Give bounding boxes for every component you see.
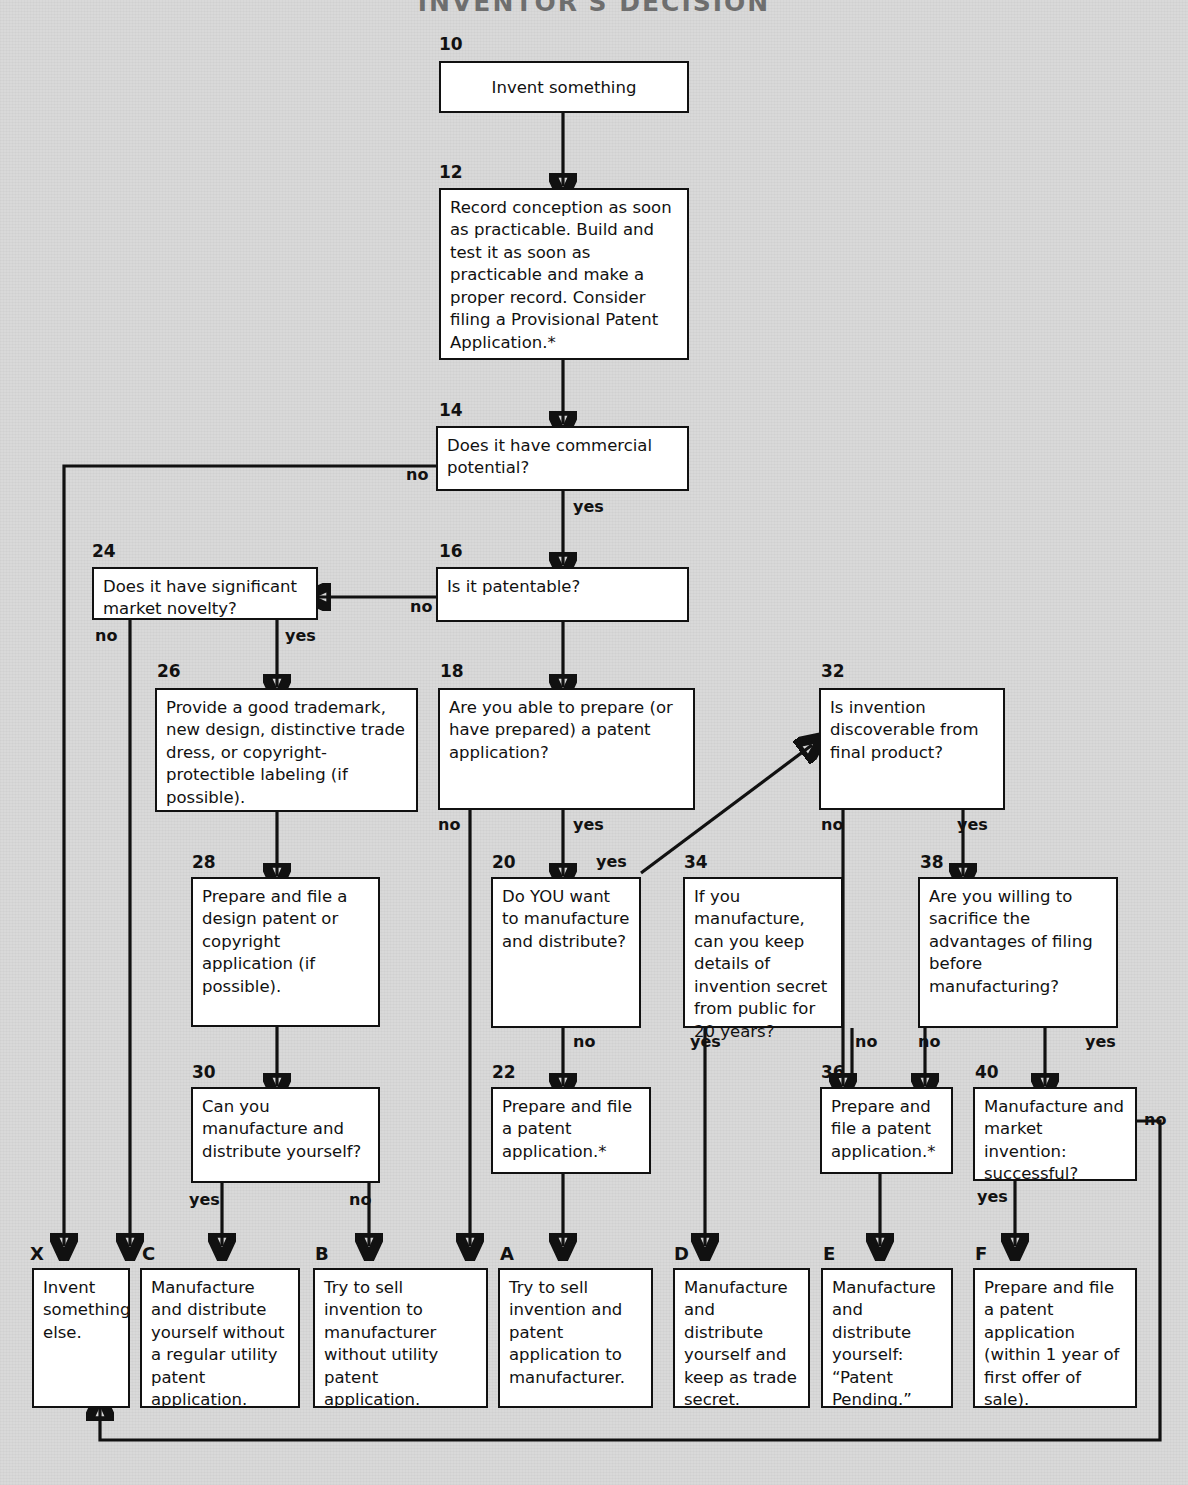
node-number-16: 16 [439, 541, 463, 561]
node-box-e[interactable]: Manufacture and distribute yourself: “Pa… [821, 1268, 953, 1408]
node-number-32: 32 [821, 661, 845, 681]
node-number-34: 34 [684, 852, 708, 872]
edge-label-24-yes: yes [285, 626, 316, 645]
node-box-24[interactable]: Does it have significant market novelty? [92, 567, 318, 620]
node-number-x: X [30, 1243, 44, 1264]
node-box-18[interactable]: Are you able to prepare (or have prepare… [438, 688, 695, 810]
node-box-34[interactable]: If you manufacture, can you keep details… [683, 877, 843, 1028]
edge-label-24-no: no [95, 626, 117, 645]
edge-label-38-yes: yes [1085, 1032, 1116, 1051]
node-number-e: E [823, 1243, 835, 1264]
node-number-28: 28 [192, 852, 216, 872]
edge-label-40-yes: yes [977, 1187, 1008, 1206]
node-box-22[interactable]: Prepare and file a patent application.* [491, 1087, 651, 1174]
edge-label-32-yes: yes [957, 815, 988, 834]
node-box-30[interactable]: Can you manufacture and distribute yours… [191, 1087, 380, 1183]
node-box-32[interactable]: Is invention discoverable from final pro… [819, 688, 1005, 810]
node-box-12[interactable]: Record conception as soon as practicable… [439, 188, 689, 360]
node-box-b[interactable]: Try to sell invention to manufacturer wi… [313, 1268, 488, 1408]
node-box-a[interactable]: Try to sell invention and patent applica… [498, 1268, 653, 1408]
node-number-30: 30 [192, 1062, 216, 1082]
edge-label-14-no: no [406, 465, 428, 484]
node-box-d[interactable]: Manufacture and distribute yourself and … [673, 1268, 810, 1408]
edge-label-20-no: no [573, 1032, 595, 1051]
node-box-16[interactable]: Is it patentable? [436, 567, 689, 622]
node-box-c[interactable]: Manufacture and distribute yourself with… [140, 1268, 300, 1408]
node-number-36: 36 [821, 1062, 845, 1082]
page-title: INVENTOR'S DECISION [0, 0, 1188, 17]
edge-label-18-no: no [438, 815, 460, 834]
node-box-26[interactable]: Provide a good trademark, new design, di… [155, 688, 418, 812]
node-number-f: F [975, 1243, 987, 1264]
node-number-20: 20 [492, 852, 516, 872]
edge-label-20-yes: yes [596, 852, 627, 871]
node-number-a: A [500, 1243, 514, 1264]
edge-label-38-no: no [918, 1032, 940, 1051]
node-box-20[interactable]: Do YOU want to manufacture and distribut… [491, 877, 641, 1028]
edge-label-18-yes: yes [573, 815, 604, 834]
node-box-40[interactable]: Manufacture and market invention: succes… [973, 1087, 1137, 1181]
edge-label-32-no: no [821, 815, 843, 834]
node-number-c: C [142, 1243, 155, 1264]
node-box-36[interactable]: Prepare and file a patent application.* [820, 1087, 953, 1174]
node-number-d: D [674, 1243, 689, 1264]
node-number-22: 22 [492, 1062, 516, 1082]
edge-label-34-no: no [855, 1032, 877, 1051]
edge-label-40-no: no [1144, 1110, 1166, 1129]
node-number-26: 26 [157, 661, 181, 681]
edge-label-30-yes: yes [189, 1190, 220, 1209]
edge-label-14-yes: yes [573, 497, 604, 516]
edge-label-30-no: no [349, 1190, 371, 1209]
node-box-28[interactable]: Prepare and file a design patent or copy… [191, 877, 380, 1027]
node-number-10: 10 [439, 34, 463, 54]
node-number-12: 12 [439, 162, 463, 182]
node-number-18: 18 [440, 661, 464, 681]
node-box-10[interactable]: Invent something [439, 61, 689, 113]
node-number-38: 38 [920, 852, 944, 872]
flowchart-canvas: INVENTOR'S DECISION [0, 0, 1188, 1485]
edge-label-16-no: no [410, 597, 432, 616]
node-box-38[interactable]: Are you willing to sacrifice the advanta… [918, 877, 1118, 1028]
node-number-40: 40 [975, 1062, 999, 1082]
node-number-14: 14 [439, 400, 463, 420]
edge-label-34-yes: yes [690, 1032, 721, 1051]
node-box-x[interactable]: Invent something else. [32, 1268, 130, 1408]
node-box-f[interactable]: Prepare and file a patent application (w… [973, 1268, 1137, 1408]
node-box-14[interactable]: Does it have commercial potential? [436, 426, 689, 491]
node-number-b: B [315, 1243, 329, 1264]
node-number-24: 24 [92, 541, 116, 561]
